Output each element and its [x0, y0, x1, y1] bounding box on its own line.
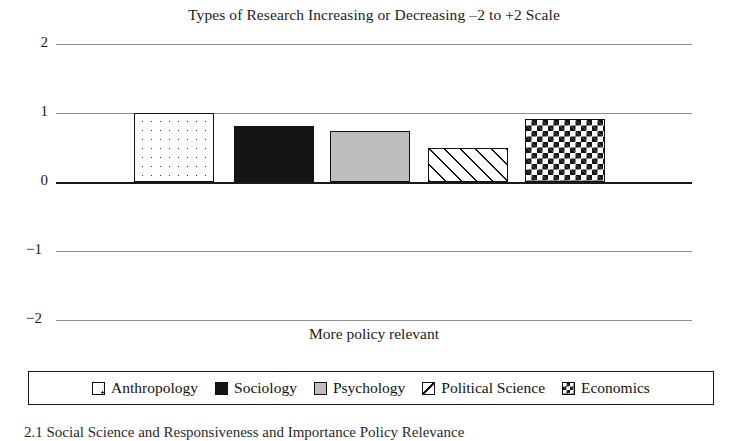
chart-title: Types of Research Increasing or Decreasi… [56, 6, 692, 24]
legend-item-economics: Economics [562, 379, 650, 397]
bar-sociology [234, 126, 314, 182]
figure-caption: 2.1 Social Science and Responsiveness an… [24, 424, 724, 441]
bar-anthropology [134, 113, 214, 182]
solid-gray-swatch-icon [314, 382, 327, 395]
bar-psychology [330, 131, 410, 182]
legend-label-political-science: Political Science [441, 379, 545, 397]
legend-item-political-science: Political Science [422, 379, 545, 397]
gridline-neg2 [56, 320, 692, 321]
y-tick-label-neg2: −2 [8, 310, 42, 327]
bar-economics [525, 119, 605, 182]
diagonal-hatch-swatch-icon [422, 382, 435, 395]
legend-label-anthropology: Anthropology [111, 379, 198, 397]
solid-black-swatch-icon [215, 382, 228, 395]
legend-item-psychology: Psychology [314, 379, 405, 397]
x-axis-label: More policy relevant [56, 325, 692, 343]
legend-label-economics: Economics [581, 379, 650, 397]
y-tick-label-2: 2 [14, 34, 48, 51]
legend-label-psychology: Psychology [333, 379, 405, 397]
bar-political-science [428, 148, 508, 182]
y-tick-label-neg1: −1 [8, 241, 42, 258]
y-tick-label-1: 1 [14, 103, 48, 120]
bars-layer [56, 44, 692, 320]
checker-swatch-icon [562, 382, 575, 395]
chart-legend: Anthropology Sociology Psychology Politi… [28, 371, 714, 405]
legend-item-sociology: Sociology [215, 379, 297, 397]
y-tick-label-0: 0 [14, 172, 48, 189]
legend-item-anthropology: Anthropology [92, 379, 198, 397]
legend-label-sociology: Sociology [234, 379, 297, 397]
dotted-swatch-icon [92, 382, 105, 395]
